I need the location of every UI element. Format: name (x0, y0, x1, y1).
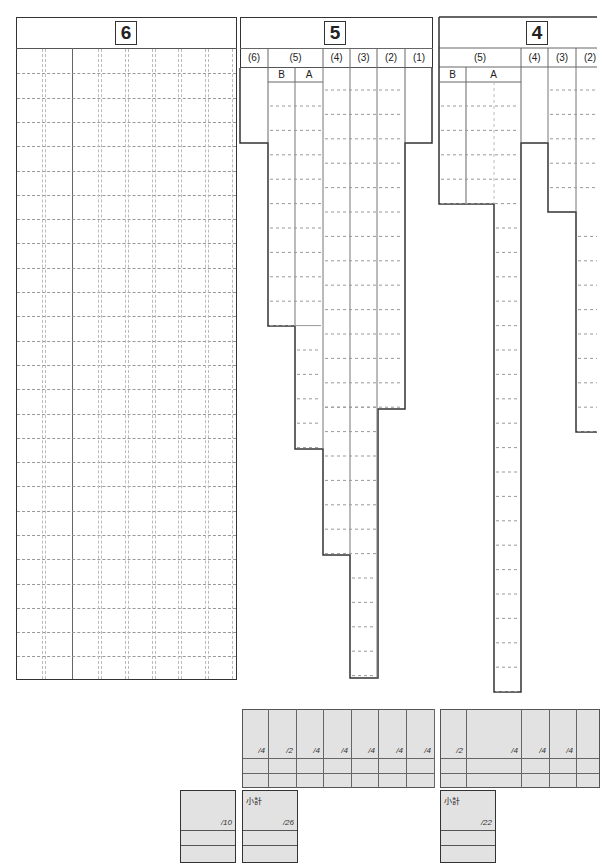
section-4-score-cell[interactable]: /4 (550, 709, 577, 788)
section-4-score-cell[interactable]: /4 (522, 709, 550, 788)
section-5-score-cell[interactable]: /4 (379, 709, 407, 788)
section-4-lines (439, 17, 597, 692)
section-4-subtotal-max: /22 (481, 818, 492, 827)
section-4-subtotal-label: 小計 (444, 795, 460, 806)
section-5-lines (240, 48, 432, 678)
section-5-max-points: /4 (368, 746, 375, 755)
section-5-score-cell[interactable]: /2 (269, 709, 297, 788)
section-5-max-points: /4 (424, 746, 431, 755)
section-4-outline (439, 17, 597, 692)
section-5-max-points: /4 (258, 746, 265, 755)
section-4-max-points: /4 (566, 746, 573, 755)
section-6-max-score: /10 (221, 818, 232, 827)
section-4-max-points: /4 (539, 746, 546, 755)
section-4-score-cell[interactable]: /4 (467, 709, 522, 788)
section-4-max-points: /2 (456, 746, 463, 755)
section-5-score-cell[interactable]: /4 (352, 709, 379, 788)
section-5-score-cell[interactable]: /4 (407, 709, 435, 788)
section-4-max-points: /4 (511, 746, 518, 755)
section-5-score-cell[interactable]: /4 (242, 709, 269, 788)
section-5-score-cell[interactable]: /4 (324, 709, 352, 788)
section-5-max-points: /4 (396, 746, 403, 755)
section-6-score-box: /10 (180, 790, 236, 863)
section-5-subtotal-label: 小計 (246, 795, 262, 806)
section-5-subtotal-max: /26 (283, 818, 294, 827)
section-5-max-points: /2 (286, 746, 293, 755)
section-5-subtotal-box: 小計 /26 (242, 790, 298, 863)
section-5-max-points: /4 (313, 746, 320, 755)
section-4-subtotal-box: 小計 /22 (440, 790, 496, 863)
section-5-max-points: /4 (341, 746, 348, 755)
section-4-score-cell[interactable]: /2 (440, 709, 467, 788)
section-5-score-cell[interactable]: /4 (297, 709, 324, 788)
section-5-outline (240, 68, 432, 678)
answer-columns-outline (0, 0, 597, 700)
